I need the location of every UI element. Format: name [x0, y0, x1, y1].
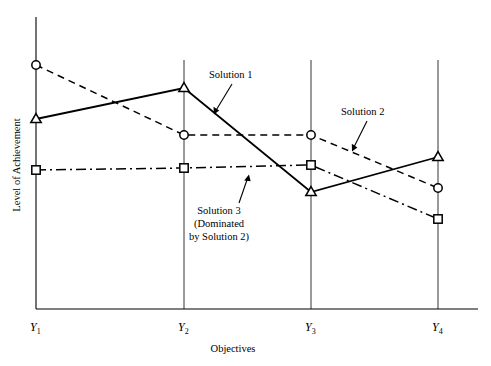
marker-circle	[180, 131, 188, 139]
annotation-solution-3-label-line2: (Dominated	[194, 218, 245, 230]
x-tick-sub-y3: 3	[312, 327, 316, 336]
x-tick-sub-y1: 1	[37, 327, 41, 336]
marker-square	[307, 161, 315, 169]
axes-group	[36, 17, 478, 309]
annotation-solution-3-arrowhead	[244, 175, 250, 182]
x-axis-title: Objectives	[211, 343, 256, 354]
x-tick-label-y3: Y3	[305, 320, 316, 336]
marker-circle	[32, 61, 40, 69]
y-axis-title: Level of Achievement	[11, 118, 22, 211]
x-tick-sub-y4: 4	[439, 327, 443, 336]
figure-container: Solution 1 Solution 2 Solution 3 (Domina…	[0, 0, 491, 366]
marker-triangle	[433, 152, 443, 161]
annotation-solution-3-label-line1: Solution 3	[197, 205, 240, 216]
marker-square	[32, 166, 40, 174]
marker-square	[434, 215, 442, 223]
annotation-solution-2: Solution 2	[341, 106, 384, 152]
marker-square	[180, 164, 188, 172]
annotation-solution-1-leader	[215, 84, 232, 112]
annotation-solution-2-label: Solution 2	[341, 106, 384, 117]
annotation-solution-2-leader	[353, 121, 367, 149]
marker-triangle	[179, 83, 189, 92]
x-tick-label-y1: Y1	[30, 320, 41, 336]
x-tick-sub-y2: 2	[185, 327, 189, 336]
series-solution-1-line	[36, 88, 438, 192]
series-solution-1	[31, 83, 443, 196]
annotation-solution-1-label: Solution 1	[209, 69, 252, 80]
annotation-solution-1: Solution 1	[209, 69, 252, 115]
x-tick-label-y4: Y4	[432, 320, 443, 336]
x-tick-labels: Y1 Y2 Y3 Y4	[30, 320, 443, 336]
gridlines-group	[184, 60, 438, 309]
x-tick-label-y2: Y2	[178, 320, 189, 336]
annotation-solution-3-label-line3: by Solution 2)	[189, 231, 250, 243]
annotation-solution-3-leader	[239, 177, 248, 203]
annotation-solution-3: Solution 3 (Dominated by Solution 2)	[189, 175, 251, 244]
objectives-achievement-chart: Solution 1 Solution 2 Solution 3 (Domina…	[0, 0, 491, 366]
marker-circle	[434, 184, 442, 192]
marker-circle	[307, 131, 315, 139]
